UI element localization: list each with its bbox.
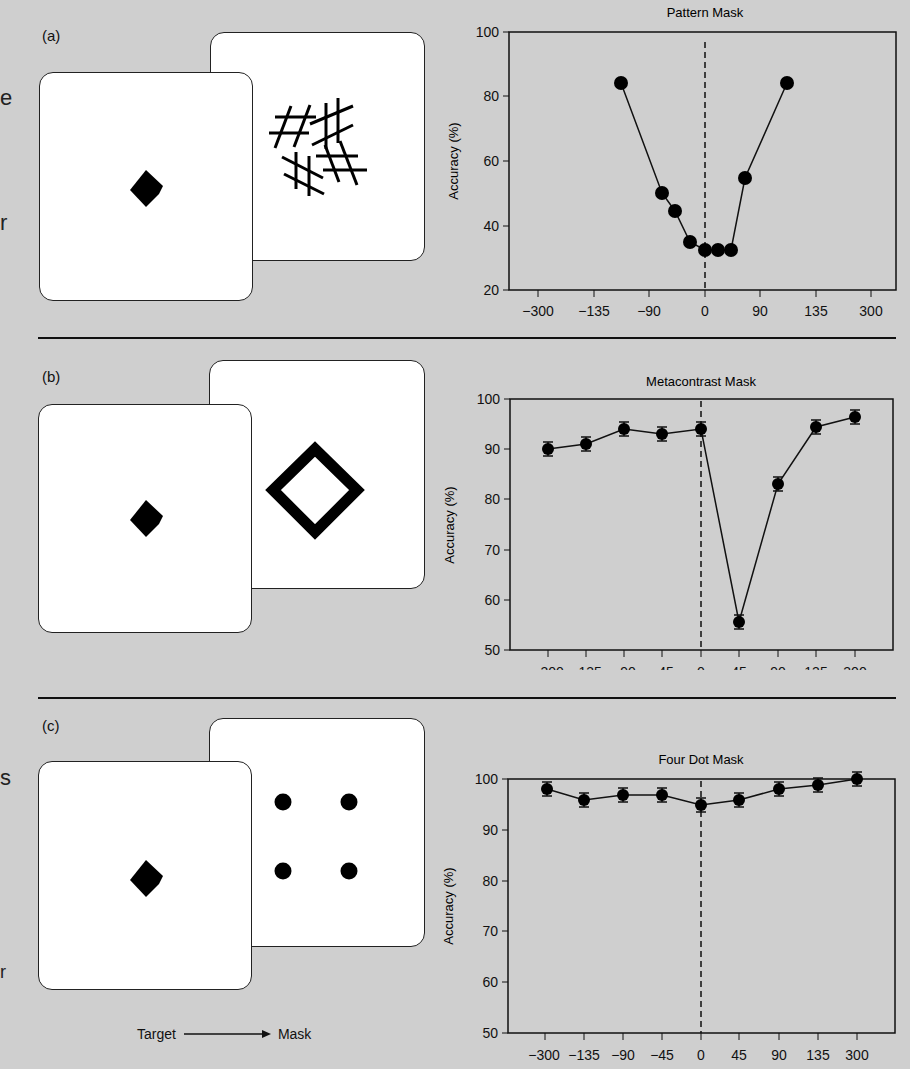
svg-text:300: 300: [859, 303, 883, 319]
chart-title: Pattern Mask: [667, 5, 744, 20]
svg-text:45: 45: [731, 1047, 747, 1063]
svg-text:100: 100: [475, 771, 499, 787]
target-card: [39, 72, 253, 301]
svg-text:70: 70: [482, 923, 498, 939]
target-diamond-icon: [128, 168, 168, 208]
svg-text:90: 90: [482, 822, 498, 838]
target-card: [38, 761, 252, 990]
chart-title: Metacontrast Mask: [646, 374, 756, 389]
edge-text-fragment: e: [0, 85, 12, 111]
panel-separator: [38, 697, 896, 699]
y-axis-label: Accuracy (%): [446, 122, 461, 199]
svg-text:90: 90: [752, 303, 768, 319]
svg-text:100: 100: [476, 24, 500, 40]
svg-text:0: 0: [701, 303, 709, 319]
svg-text:100: 100: [477, 391, 501, 407]
svg-text:135: 135: [804, 303, 828, 319]
svg-text:−300: −300: [528, 1047, 560, 1063]
svg-text:300: 300: [845, 1047, 869, 1063]
svg-text:40: 40: [483, 218, 499, 234]
svg-text:−300: −300: [532, 664, 564, 670]
y-axis-label: Accuracy (%): [442, 486, 457, 563]
svg-text:50: 50: [484, 642, 500, 658]
panel-separator: [38, 337, 896, 339]
svg-text:−90: −90: [611, 1047, 635, 1063]
svg-text:90: 90: [770, 664, 786, 670]
svg-text:135: 135: [806, 1047, 830, 1063]
svg-text:90: 90: [771, 1047, 787, 1063]
arrow-right-icon: [182, 1029, 272, 1039]
edge-text-fragment: r: [0, 210, 7, 236]
svg-text:0: 0: [697, 1047, 705, 1063]
target-diamond-icon: [128, 498, 168, 538]
panel-label-b: (b): [42, 368, 60, 385]
chart-metacontrast-mask: Metacontrast Mask 100 90 80 70 60 50 Acc…: [440, 365, 910, 670]
target-diamond-icon: [128, 858, 168, 898]
edge-text-fragment: s: [0, 765, 11, 791]
svg-text:20: 20: [483, 282, 499, 298]
svg-text:60: 60: [484, 592, 500, 608]
target-card: [38, 404, 252, 633]
svg-text:135: 135: [804, 664, 828, 670]
edge-text-fragment: r: [0, 962, 6, 983]
svg-text:45: 45: [731, 664, 747, 670]
y-axis-label: Accuracy (%): [441, 867, 456, 944]
svg-text:300: 300: [843, 664, 867, 670]
svg-text:−135: −135: [570, 664, 602, 670]
svg-text:−45: −45: [650, 1047, 674, 1063]
svg-text:60: 60: [483, 153, 499, 169]
chart-four-dot-mask: Four Dot Mask 100 90 80 70 60 50 Accurac…: [440, 740, 910, 1069]
svg-text:60: 60: [482, 974, 498, 990]
svg-text:0: 0: [697, 664, 705, 670]
legend-target-label: Target: [137, 1026, 176, 1042]
svg-text:70: 70: [484, 542, 500, 558]
legend-mask-label: Mask: [278, 1026, 311, 1042]
panel-label-c: (c): [42, 717, 60, 734]
svg-text:50: 50: [482, 1025, 498, 1041]
svg-text:−90: −90: [637, 303, 661, 319]
svg-text:80: 80: [483, 88, 499, 104]
sequence-legend: Target Mask: [137, 1026, 311, 1042]
svg-text:−135: −135: [578, 303, 610, 319]
chart-pattern-mask: Pattern Mask 100 80 60 40 20 Accuracy (%…: [440, 0, 910, 330]
svg-text:−45: −45: [650, 664, 674, 670]
panel-label-a: (a): [42, 27, 60, 44]
svg-text:−90: −90: [612, 664, 636, 670]
svg-text:90: 90: [484, 441, 500, 457]
svg-text:−300: −300: [522, 303, 554, 319]
chart-title: Four Dot Mask: [658, 752, 744, 767]
svg-text:−135: −135: [568, 1047, 600, 1063]
svg-text:80: 80: [484, 491, 500, 507]
svg-text:80: 80: [482, 873, 498, 889]
